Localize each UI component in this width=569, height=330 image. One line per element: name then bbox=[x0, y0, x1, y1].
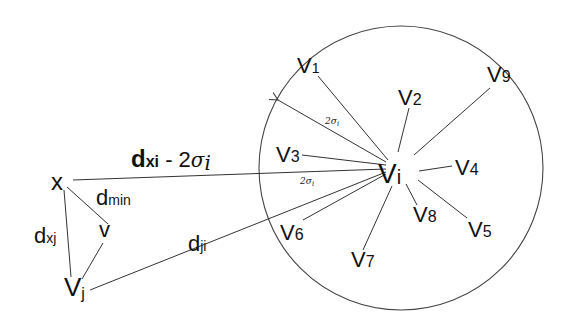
label-dmin: dmin bbox=[96, 185, 131, 210]
label-dxj: dxj bbox=[34, 223, 56, 248]
node-v3: V3 bbox=[276, 142, 300, 167]
node-v8: V8 bbox=[413, 202, 437, 227]
radius-label-lower: 2σi bbox=[299, 176, 314, 188]
edge-x-vi bbox=[73, 169, 386, 180]
edge-vi-v6 bbox=[303, 174, 386, 220]
edge-vj-vi bbox=[90, 172, 386, 290]
radius-label-upper: 2σi bbox=[324, 116, 339, 128]
node-v9: V9 bbox=[487, 62, 511, 87]
node-v5: V5 bbox=[468, 217, 492, 242]
edge-vi-v2 bbox=[398, 108, 409, 152]
edge-x-vj bbox=[64, 190, 71, 277]
label-dji: dji bbox=[188, 231, 206, 256]
edge-vi-v3 bbox=[302, 155, 386, 165]
neighborhood-diagram: Vi V1 V2 V3 V4 V5 V6 V7 V8 V9 2σi 2σi x … bbox=[0, 0, 569, 330]
edge-vi-v4 bbox=[419, 166, 452, 171]
node-vj: Vj bbox=[64, 272, 85, 302]
node-v7: V7 bbox=[351, 247, 375, 272]
label-dxi-minus-2sigma: dxi - 2σi bbox=[131, 145, 211, 175]
node-v4: V4 bbox=[455, 155, 479, 180]
node-vi: Vi bbox=[378, 158, 401, 189]
edge-vi-v9 bbox=[414, 88, 490, 155]
node-v1: V1 bbox=[297, 53, 320, 78]
node-v2: V2 bbox=[398, 85, 422, 110]
edge-v-vj bbox=[82, 243, 103, 279]
node-v6: V6 bbox=[280, 220, 304, 245]
edge-vi-v7 bbox=[363, 186, 392, 250]
node-v: v bbox=[99, 217, 110, 242]
node-x: x bbox=[51, 168, 63, 195]
